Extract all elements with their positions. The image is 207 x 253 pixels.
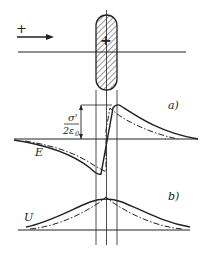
jump-denominator: 2ε [62,125,74,136]
potential-curve-dashdot [30,197,182,229]
field-label-E: E [34,146,43,159]
potential-label-U: U [24,211,34,224]
field-curve-dashdot [25,108,178,172]
potential-curve-solid [26,199,190,227]
left-charge-sign: + [16,21,27,36]
panel-a-label: a) [168,99,179,112]
jump-denominator-subscript: 0 [75,130,79,138]
diagram-canvas: + + σ' 2ε 0 E a) U b) [0,0,207,253]
field-jump-dimension [79,105,112,139]
jump-numerator: σ' [68,112,78,123]
slab-charge-sign: + [100,32,112,48]
panel-b-label: b) [168,190,179,203]
